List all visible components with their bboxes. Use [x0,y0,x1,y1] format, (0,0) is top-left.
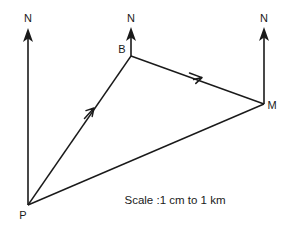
vertex-label-b: B [118,43,125,55]
north-arrow-group-p: N [23,12,33,205]
scale-caption: Scale :1 cm to 1 km [125,194,226,206]
diagram-canvas: N N N P B M Scale :1 cm t [0,0,299,228]
triangle-path-group [28,56,264,205]
north-label-b: N [127,12,135,24]
north-label-m: N [260,12,268,24]
segment-b-m [131,56,264,104]
vertex-label-m: M [267,99,276,111]
vertex-label-p: P [19,209,26,221]
north-label-p: N [24,12,32,24]
bearing-diagram: N N N P B M Scale :1 cm t [0,0,299,228]
north-arrow-group-m: N [259,12,269,104]
north-arrow-group-b: N [126,12,136,56]
